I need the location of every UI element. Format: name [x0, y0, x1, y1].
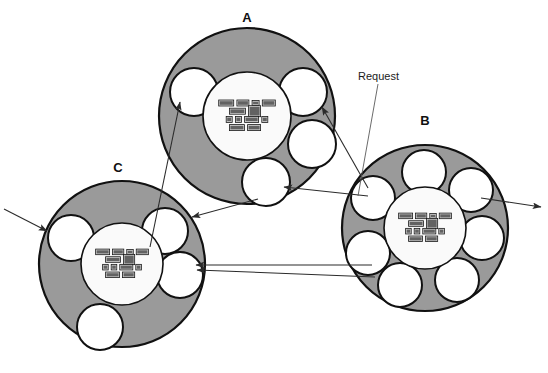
core-label-text-glyphs: [236, 118, 240, 122]
core-label-text-glyphs: [230, 109, 244, 113]
diagram-canvas: ABCRequest: [0, 0, 548, 373]
node-label-a: A: [242, 10, 252, 25]
core-label-text-glyphs: [128, 251, 133, 253]
core-label-text-glyphs: [250, 107, 260, 116]
core-label-text-glyphs: [440, 230, 444, 233]
core-label-text-glyphs: [137, 266, 141, 269]
satellite-circle[interactable]: [77, 304, 123, 350]
connection-B-to-C-pair-2: [197, 270, 375, 277]
core-label-text-glyphs: [238, 101, 248, 105]
nodes-layer: [39, 28, 508, 350]
satellite-circle[interactable]: [157, 252, 203, 298]
core-label-text-glyphs: [124, 256, 133, 264]
satellite-circle[interactable]: [242, 158, 290, 206]
core-label-text-glyphs: [400, 214, 412, 217]
core-label-text-glyphs: [124, 273, 134, 276]
core-label-text-glyphs: [121, 266, 132, 269]
satellite-circle[interactable]: [460, 216, 504, 260]
annotation-request: Request: [358, 70, 399, 82]
node-core[interactable]: [203, 72, 291, 160]
node-label-b: B: [420, 113, 429, 128]
network-diagram: ABCRequest: [0, 0, 548, 373]
core-label-text-glyphs: [107, 258, 120, 261]
core-label-text-glyphs: [440, 214, 450, 217]
core-label-text-glyphs: [417, 214, 426, 217]
core-label-text-glyphs: [137, 250, 147, 253]
satellite-circle[interactable]: [346, 231, 390, 275]
core-label-text-glyphs: [230, 126, 243, 130]
core-label-text-glyphs: [220, 101, 233, 105]
core-label-text-glyphs: [263, 118, 267, 122]
node-c[interactable]: [39, 181, 205, 350]
core-label-text-glyphs: [107, 273, 119, 276]
connection-external-in-C: [4, 209, 47, 231]
core-label-text-glyphs: [246, 118, 258, 122]
core-label-text-glyphs: [415, 230, 419, 233]
satellite-circle[interactable]: [288, 120, 336, 168]
core-label-text-glyphs: [407, 230, 411, 233]
core-label-text-glyphs: [112, 266, 116, 269]
core-label-text-glyphs: [427, 237, 437, 240]
satellite-circle[interactable]: [378, 263, 422, 307]
core-label-text-glyphs: [427, 220, 436, 228]
core-label-text-glyphs: [410, 222, 423, 225]
core-label-text-glyphs: [114, 250, 123, 253]
core-label-text-glyphs: [431, 215, 436, 217]
node-a[interactable]: [159, 28, 336, 206]
node-label-c: C: [113, 160, 123, 175]
core-label-text-glyphs: [410, 237, 422, 240]
core-label-text-glyphs: [227, 118, 231, 122]
core-label-text-glyphs: [424, 230, 435, 233]
core-label-text-glyphs: [253, 102, 258, 105]
core-label-text-glyphs: [249, 126, 260, 130]
core-label-text-glyphs: [263, 101, 274, 105]
node-b[interactable]: [342, 145, 508, 311]
core-label-text-glyphs: [97, 250, 109, 253]
core-label-text-glyphs: [104, 266, 108, 269]
